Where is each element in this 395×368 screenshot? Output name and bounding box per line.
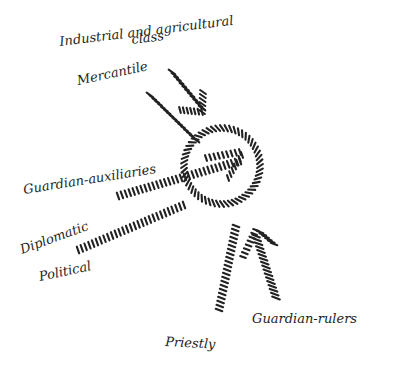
label-diplomatic: Diplomatic — [17, 218, 91, 257]
mercantile-line — [147, 93, 200, 143]
label-priestly: Priestly — [164, 334, 217, 352]
label-mercantile: Mercantile — [75, 58, 150, 88]
label-guardian-auxiliaries: Guardian-auxiliaries — [22, 161, 157, 197]
label-guardian-rulers: Guardian-rulers — [252, 311, 357, 326]
label-political: Political — [37, 258, 93, 284]
hatched-marks — [77, 70, 280, 312]
diagram-canvas: Industrial and agricultural class Mercan… — [0, 0, 395, 368]
priestly-line — [216, 225, 240, 311]
diplomatic-line — [77, 202, 185, 254]
label-industrial-line2: class — [131, 28, 165, 47]
